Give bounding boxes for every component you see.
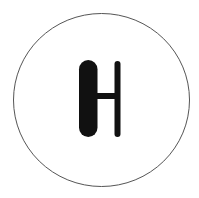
h-thick-left-bar xyxy=(79,60,98,137)
h-crossbar xyxy=(96,93,117,99)
h-thin-right-bar xyxy=(115,61,121,137)
symbol-canvas xyxy=(0,0,199,198)
